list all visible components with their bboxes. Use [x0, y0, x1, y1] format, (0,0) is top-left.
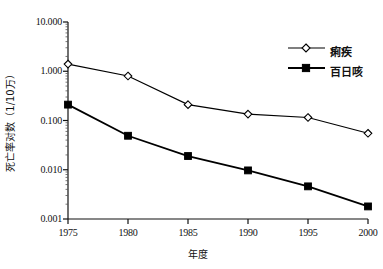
series-1-point-4 [305, 183, 312, 190]
y-tick-label: 1.000 [18, 65, 62, 76]
series-1-point-5 [365, 203, 372, 210]
series-1-point-3 [245, 167, 252, 174]
series-1-point-2 [185, 153, 192, 160]
series-0-point-1 [124, 72, 132, 80]
y-tick-label: 0.100 [18, 115, 62, 126]
y-axis-title-layer: 死亡率对数（1/10万） [4, 69, 16, 171]
x-tick-label: 1975 [43, 227, 93, 238]
x-axis-ticks [68, 219, 368, 224]
series-0-point-5 [364, 129, 372, 137]
series-0-point-2 [184, 101, 192, 109]
series-0-point-0 [64, 60, 72, 68]
y-tick-label: 0.010 [18, 164, 62, 175]
y-axis-ticks [63, 22, 68, 219]
series-1-line [68, 105, 368, 207]
x-tick-label: 2000 [343, 227, 383, 238]
legend-item-1-marker [302, 64, 309, 71]
chart-figure: 死亡率对数（1/10万） 10.0001.0000.1000.0100.001 … [0, 0, 383, 269]
y-axis-title: 死亡率对数（1/10万） [4, 69, 16, 171]
series-1-point-1 [125, 132, 132, 139]
x-tick-label: 1985 [163, 227, 213, 238]
x-tick-label: 1980 [103, 227, 153, 238]
x-axis-title: 年度 [188, 246, 208, 261]
legend-item-1-label: 百日咳 [330, 63, 363, 79]
legend-item-0-marker [302, 44, 310, 52]
series-0-point-3 [244, 110, 252, 118]
legend-markers [288, 44, 325, 72]
data-series-layer [64, 60, 372, 210]
y-tick-label: 10.000 [18, 16, 62, 27]
series-0-line [68, 64, 368, 133]
series-0-point-4 [304, 114, 312, 122]
x-tick-label: 1990 [223, 227, 273, 238]
series-1 [65, 101, 372, 210]
x-tick-label: 1995 [283, 227, 333, 238]
y-tick-label: 0.001 [18, 213, 62, 224]
legend-item-0-label: 痢疾 [330, 43, 352, 59]
series-1-point-0 [65, 101, 72, 108]
series-0 [64, 60, 372, 137]
